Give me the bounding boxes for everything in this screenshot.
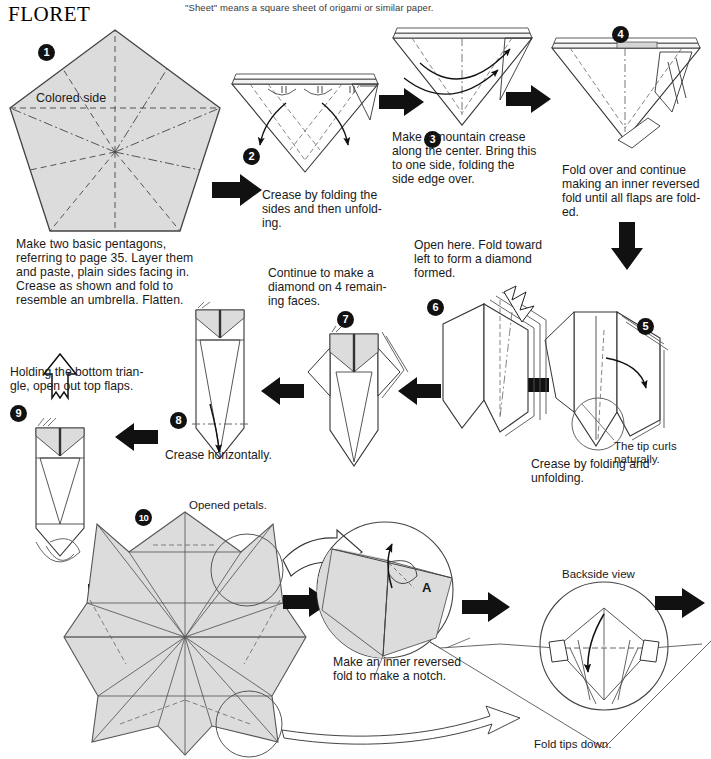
point-a-label: A bbox=[422, 581, 431, 596]
step-caption-4: Fold over and continue making an inner r… bbox=[562, 163, 711, 219]
colored-side-label: Colored side bbox=[36, 91, 106, 105]
step-caption-2: Crease by folding the sides and then unf… bbox=[262, 188, 394, 230]
step-badge-4: 4 bbox=[612, 26, 629, 43]
step-badge-6: 6 bbox=[427, 299, 444, 316]
opened-petals-label: Opened petals. bbox=[189, 499, 267, 512]
step-badge-7: 7 bbox=[337, 311, 354, 328]
step-badge-9: 9 bbox=[10, 405, 27, 422]
step-caption-5: Crease by folding and unfolding. bbox=[531, 457, 709, 485]
step-caption-7: Continue to make a diamond on 4 remain- … bbox=[268, 266, 410, 308]
step-badge-10: 10 bbox=[135, 509, 152, 526]
header-note: "Sheet" means a square sheet of origami … bbox=[185, 2, 433, 13]
step-caption-6: Open here. Fold toward left to form a di… bbox=[414, 238, 574, 280]
step-10-figure bbox=[64, 512, 306, 757]
step-caption-9: Holding the bottom trian- gle, open out … bbox=[10, 365, 160, 393]
fold-tips-down-label: Fold tips down. bbox=[534, 738, 611, 751]
backside-view-label: Backside view bbox=[562, 568, 635, 581]
step-badge-1: 1 bbox=[38, 44, 55, 61]
step-caption-8: Crease horizontally. bbox=[165, 448, 325, 462]
page-title: FLORET bbox=[8, 2, 90, 27]
step-badge-8: 8 bbox=[170, 412, 187, 429]
step-badge-2: 2 bbox=[243, 148, 260, 165]
step-badge-5: 5 bbox=[637, 318, 654, 335]
step-caption-11: Make an inner reversed fold to make a no… bbox=[333, 655, 493, 683]
step-caption-1: Make two basic pentagons, referring to p… bbox=[16, 237, 231, 307]
step-caption-3: Make a mountain crease along the center.… bbox=[392, 130, 564, 186]
